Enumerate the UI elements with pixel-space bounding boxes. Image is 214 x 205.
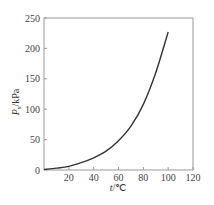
x-axis-title: t/℃ [110, 182, 127, 193]
y-tick-label: 150 [25, 73, 40, 84]
x-tick-label: 20 [64, 172, 74, 183]
y-axis-unit: /kPa [10, 88, 21, 106]
y-tick-label: 50 [30, 134, 40, 145]
x-axis-unit: /℃ [113, 182, 127, 193]
x-tick-label: 80 [138, 172, 148, 183]
y-tick-label: 0 [35, 165, 40, 176]
x-tick-label: 40 [89, 172, 99, 183]
y-tick-label: 250 [25, 13, 40, 24]
chart: 050100150200250 20406080100120 Ps/kPa t/… [0, 0, 214, 205]
x-tick-label: 100 [161, 172, 176, 183]
y-tick-label: 200 [25, 43, 40, 54]
plot-frame [44, 18, 193, 170]
series-line-vapor-pressure [44, 32, 168, 169]
x-ticks: 20406080100120 [64, 167, 201, 183]
x-tick-label: 120 [186, 172, 201, 183]
y-axis-var: P [10, 109, 21, 116]
y-axis-title: Ps/kPa [10, 88, 23, 116]
y-tick-label: 100 [25, 104, 40, 115]
